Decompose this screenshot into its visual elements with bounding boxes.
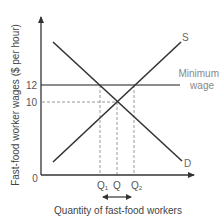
demand-label: D: [184, 158, 191, 169]
y-tick-12: 12: [26, 80, 38, 91]
supply-label: S: [182, 32, 189, 43]
q1-label: Q1: [97, 180, 109, 191]
x-axis-title: Quantity of fast-food workers: [54, 205, 182, 216]
minimum-wage-label-line2: wage: [189, 80, 214, 91]
q-label: Q: [113, 180, 121, 191]
origin-label: 0: [32, 173, 38, 184]
y-tick-10: 10: [26, 97, 38, 108]
minimum-wage-label-line1: Minimum: [178, 68, 219, 79]
q2-label: Q2: [131, 180, 143, 191]
y-axis-title: Fast-food worker wages ($ per hour): [10, 24, 21, 186]
supply-demand-chart: S D Minimum wage 12 10 0 Q1 Q Q2 Quantit…: [0, 0, 221, 223]
